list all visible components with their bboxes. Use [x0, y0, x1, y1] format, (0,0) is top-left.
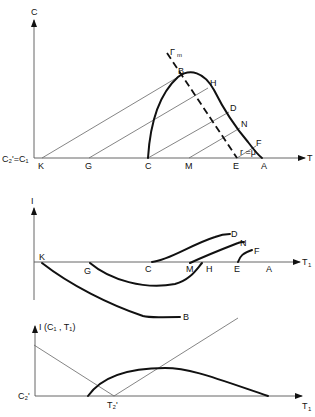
- point-m: M: [186, 264, 194, 274]
- y-axis-label: C: [31, 7, 38, 17]
- point-k: K: [39, 252, 45, 262]
- gamma-sub: m: [177, 52, 182, 58]
- curve-k-b: [42, 263, 180, 317]
- x-axis-sub: 1: [308, 262, 312, 268]
- equilibrium-curve: [148, 72, 262, 158]
- y-axis-label: I: [31, 196, 34, 206]
- top-panel: C T C₂'=C₁ r =μ Γ m K G C M E A B H D N …: [2, 7, 313, 171]
- point-e: E: [233, 161, 239, 171]
- t2-label: T₂': [107, 400, 118, 410]
- point-m: M: [185, 161, 193, 171]
- point-h: H: [206, 264, 213, 274]
- point-g: G: [85, 161, 92, 171]
- point-g: G: [84, 266, 91, 276]
- bottom-panel: I (C₁ , T₁) T 1 C₂' T₂': [18, 318, 312, 412]
- line-c-d: [148, 112, 229, 158]
- point-a: A: [266, 264, 272, 274]
- point-b: B: [183, 312, 189, 322]
- point-c: C: [145, 161, 152, 171]
- point-e: E: [234, 264, 240, 274]
- x-axis-sub: 1: [308, 406, 312, 412]
- curve-e-f: [238, 250, 252, 262]
- point-f: F: [256, 138, 262, 148]
- point-b: B: [178, 66, 184, 76]
- curve-c-d: [152, 234, 230, 262]
- point-a: A: [261, 161, 267, 171]
- line-m-n: [189, 128, 240, 158]
- point-d: D: [231, 229, 238, 239]
- figure-canvas: C T C₂'=C₁ r =μ Γ m K G C M E A B H D N …: [0, 0, 315, 417]
- point-f: F: [254, 246, 260, 256]
- point-k: K: [38, 161, 44, 171]
- x-axis-label: T: [307, 153, 313, 163]
- point-h: H: [210, 78, 217, 88]
- y-axis-label: I (C₁ , T₁): [39, 322, 75, 332]
- gamma-label: Γ: [170, 47, 175, 57]
- origin-label: C₂'=C₁: [2, 154, 29, 164]
- point-n: N: [240, 238, 247, 248]
- middle-panel: I T 1 K G C M H E A B D N F: [31, 196, 312, 322]
- point-c: C: [145, 264, 152, 274]
- origin-label: C₂': [18, 391, 30, 401]
- descending-line: [34, 345, 114, 396]
- ascending-line: [114, 318, 238, 396]
- i-curve: [88, 368, 268, 396]
- point-n: N: [241, 119, 248, 129]
- curve-m-n: [190, 242, 244, 263]
- condition-label: r =μ: [240, 147, 256, 157]
- point-d: D: [230, 103, 237, 113]
